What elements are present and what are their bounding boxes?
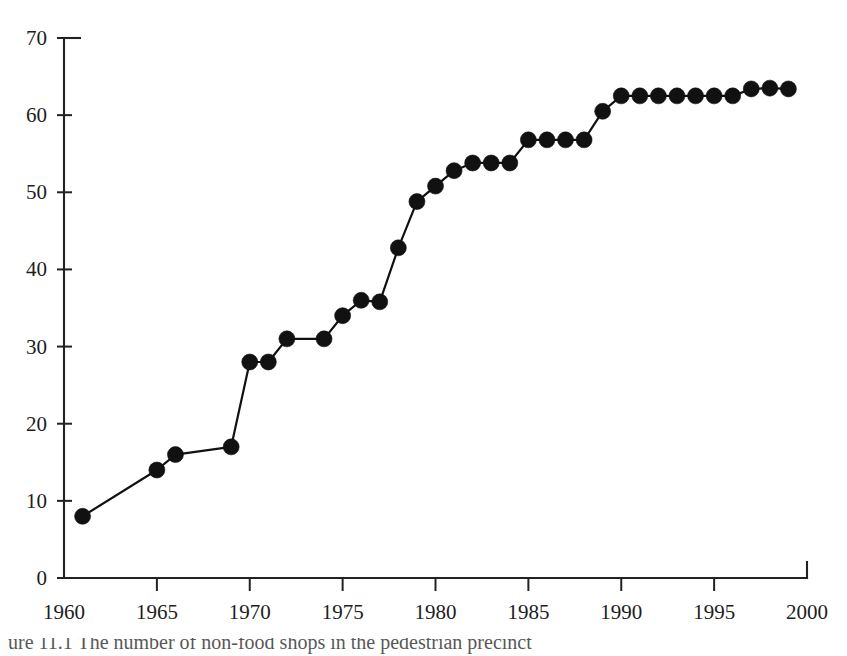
data-point-marker bbox=[75, 508, 91, 524]
data-point-marker bbox=[446, 163, 462, 179]
data-point-marker bbox=[576, 132, 592, 148]
data-point-marker bbox=[223, 439, 239, 455]
x-tick-label: 1995 bbox=[693, 600, 735, 624]
data-point-marker bbox=[390, 240, 406, 256]
y-tick-label: 0 bbox=[37, 566, 48, 590]
figure-caption-strip: ure 11.1 The number of non-food shops in… bbox=[0, 638, 847, 656]
data-point-marker bbox=[650, 88, 666, 104]
line-chart-canvas: 010203040506070 196019651970197519801985… bbox=[0, 0, 847, 656]
data-point-marker bbox=[558, 132, 574, 148]
y-tick-label: 20 bbox=[26, 412, 47, 436]
data-point-marker bbox=[428, 178, 444, 194]
data-point-marker bbox=[632, 88, 648, 104]
y-tick-label: 70 bbox=[26, 26, 47, 50]
data-point-marker bbox=[743, 81, 759, 97]
data-point-markers bbox=[75, 80, 797, 524]
y-tick-label: 50 bbox=[26, 180, 47, 204]
x-tick-label: 1990 bbox=[600, 600, 642, 624]
x-tick-label: 1960 bbox=[43, 600, 85, 624]
x-axis-tick-marks bbox=[157, 578, 714, 591]
data-point-marker bbox=[242, 354, 258, 370]
data-point-marker bbox=[706, 88, 722, 104]
data-point-marker bbox=[725, 88, 741, 104]
figure-caption: ure 11.1 The number of non-food shops in… bbox=[8, 638, 532, 654]
data-point-marker bbox=[595, 103, 611, 119]
data-point-marker bbox=[316, 331, 332, 347]
x-axis-tick-labels: 196019651970197519801985199019952000 bbox=[43, 600, 828, 624]
x-tick-label: 1980 bbox=[415, 600, 457, 624]
data-point-marker bbox=[167, 447, 183, 463]
y-axis-tick-labels: 010203040506070 bbox=[26, 26, 47, 590]
x-tick-label: 2000 bbox=[786, 600, 828, 624]
data-point-marker bbox=[669, 88, 685, 104]
data-point-marker bbox=[279, 331, 295, 347]
data-point-marker bbox=[149, 462, 165, 478]
data-point-marker bbox=[613, 88, 629, 104]
data-point-marker bbox=[483, 155, 499, 171]
data-point-marker bbox=[762, 80, 778, 96]
data-point-marker bbox=[465, 155, 481, 171]
data-series-line bbox=[83, 88, 789, 516]
x-tick-label: 1985 bbox=[507, 600, 549, 624]
y-tick-label: 10 bbox=[26, 489, 47, 513]
data-point-marker bbox=[353, 292, 369, 308]
y-tick-label: 30 bbox=[26, 335, 47, 359]
y-tick-label: 40 bbox=[26, 257, 47, 281]
chart-figure: 010203040506070 196019651970197519801985… bbox=[0, 0, 847, 656]
data-point-marker bbox=[520, 132, 536, 148]
data-point-marker bbox=[335, 308, 351, 324]
x-tick-label: 1970 bbox=[229, 600, 271, 624]
data-point-marker bbox=[409, 194, 425, 210]
data-point-marker bbox=[688, 88, 704, 104]
data-point-marker bbox=[539, 132, 555, 148]
y-tick-label: 60 bbox=[26, 103, 47, 127]
data-point-marker bbox=[502, 155, 518, 171]
data-point-marker bbox=[780, 81, 796, 97]
x-tick-label: 1975 bbox=[322, 600, 364, 624]
data-point-marker bbox=[372, 294, 388, 310]
data-point-marker bbox=[260, 354, 276, 370]
x-tick-label: 1965 bbox=[136, 600, 178, 624]
